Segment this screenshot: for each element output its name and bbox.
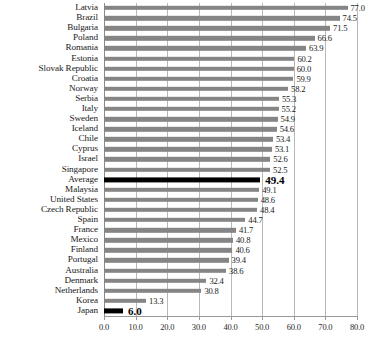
value-label: 53.1 <box>275 145 289 154</box>
bar <box>104 56 294 60</box>
value-label: 38.6 <box>229 266 243 275</box>
category-label: Bulgaria <box>67 24 98 33</box>
bar-row: Brazil74.5 <box>0 13 380 23</box>
value-label: 30.8 <box>204 286 218 295</box>
value-label: 54.9 <box>281 115 295 124</box>
category-label: Serbia <box>75 94 98 103</box>
value-label: 53.4 <box>276 135 290 144</box>
tick-mark-20.0 <box>167 316 168 320</box>
bar-row: Iceland54.6 <box>0 124 380 134</box>
category-label: France <box>74 226 98 235</box>
value-label: 74.5 <box>343 14 357 23</box>
value-label: 32.4 <box>209 276 223 285</box>
value-label: 40.8 <box>236 236 250 245</box>
bar <box>104 117 278 121</box>
bar <box>104 308 123 313</box>
x-tick-label: 30.0 <box>192 322 206 332</box>
bar <box>104 26 330 30</box>
value-label: 71.5 <box>333 24 347 33</box>
category-label: Latvia <box>75 3 98 12</box>
category-label: Norway <box>69 84 98 93</box>
bar-row: Slovak Republic60.0 <box>0 64 380 74</box>
category-label: Denmark <box>65 276 98 285</box>
bar-row: Serbia55.3 <box>0 94 380 104</box>
value-label: 58.2 <box>291 85 305 94</box>
bar <box>104 238 233 242</box>
tick-mark-70.0 <box>325 316 326 320</box>
tick-mark-0.0 <box>104 316 105 320</box>
category-label: Portugal <box>68 256 98 265</box>
bar-row: Latvia77.0 <box>0 3 380 13</box>
tick-mark-30.0 <box>199 316 200 320</box>
x-tick-label: 50.0 <box>255 322 269 332</box>
category-label: Slovak Republic <box>39 64 99 73</box>
bar <box>104 46 306 50</box>
bar <box>104 208 257 212</box>
tick-mark-40.0 <box>231 316 232 320</box>
x-tick-label: 20.0 <box>160 322 174 332</box>
category-label: Italy <box>82 104 98 113</box>
category-label: Japan <box>78 306 98 315</box>
bar <box>104 87 288 91</box>
value-label: 49.1 <box>262 185 276 194</box>
bar-row: Mexico40.8 <box>0 235 380 245</box>
category-label: Estonia <box>71 54 98 63</box>
bar <box>104 77 293 81</box>
x-tick-label: 10.0 <box>129 322 143 332</box>
bar-row: Israel52.6 <box>0 154 380 164</box>
category-label: Chile <box>79 135 98 144</box>
bar <box>104 157 270 161</box>
value-label: 6.0 <box>128 305 142 316</box>
bar <box>104 167 270 171</box>
bar <box>104 6 348 10</box>
bar-row: Cyprus53.1 <box>0 144 380 154</box>
value-label: 66.6 <box>318 34 332 43</box>
bar-row: Average49.4 <box>0 175 380 185</box>
bar-row: Finland40.6 <box>0 245 380 255</box>
x-tick-label: 70.0 <box>318 322 332 332</box>
bar <box>104 137 273 141</box>
bar <box>104 289 201 293</box>
bar-row: Singapore52.5 <box>0 165 380 175</box>
bar-row: Australia38.6 <box>0 266 380 276</box>
bar-row: Korea13.3 <box>0 296 380 306</box>
category-label: Average <box>68 175 98 184</box>
value-label: 41.7 <box>239 226 253 235</box>
tick-mark-10.0 <box>136 316 137 320</box>
bar <box>104 127 277 131</box>
value-label: 54.6 <box>280 125 294 134</box>
bar-row: Norway58.2 <box>0 84 380 94</box>
value-label: 39.4 <box>232 256 246 265</box>
bar-row: Portugal39.4 <box>0 255 380 265</box>
bar <box>104 147 272 151</box>
bar-row: France41.7 <box>0 225 380 235</box>
category-label: Netherlands <box>55 286 98 295</box>
value-label: 55.2 <box>282 105 296 114</box>
value-label: 13.3 <box>149 297 163 306</box>
value-label: 59.9 <box>296 74 310 83</box>
bar <box>104 228 236 232</box>
value-label: 40.6 <box>235 246 249 255</box>
tick-mark-60.0 <box>294 316 295 320</box>
category-label: Czech Republic <box>41 205 98 214</box>
horizontal-bar-chart: 0.010.020.030.040.050.060.070.080.0 Latv… <box>0 0 380 350</box>
bar-row: Japan6.0 <box>0 306 380 316</box>
tick-mark-50.0 <box>262 316 263 320</box>
category-label: Brazil <box>76 14 98 23</box>
value-label: 48.6 <box>261 196 275 205</box>
bar <box>104 218 245 222</box>
category-label: Korea <box>76 296 98 305</box>
category-label: Spain <box>78 215 98 224</box>
bar <box>104 188 259 192</box>
category-label: Romania <box>66 44 98 53</box>
category-label: Croatia <box>72 74 98 83</box>
x-tick-label: 0.0 <box>99 322 109 332</box>
category-label: Singapore <box>62 165 98 174</box>
x-tick-label: 40.0 <box>223 322 237 332</box>
category-label: Israel <box>78 155 98 164</box>
category-label: Malaysia <box>65 185 98 194</box>
bar-row: Romania63.9 <box>0 43 380 53</box>
bar-row: Czech Republic48.4 <box>0 205 380 215</box>
x-tick-label: 80.0 <box>350 322 364 332</box>
category-label: Finland <box>71 246 98 255</box>
